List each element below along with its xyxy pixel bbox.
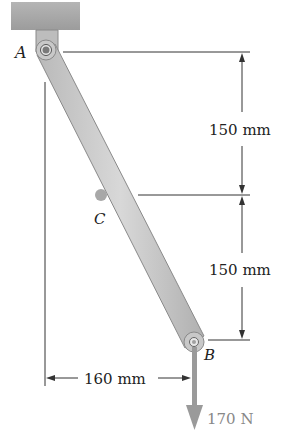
dim-label-lower: 150 mm: [209, 261, 271, 279]
pin-b: [190, 338, 199, 347]
pin-a: [41, 45, 52, 56]
diagram-canvas: A C B 150 mm 150 mm 160 mm 170 N: [0, 0, 288, 442]
label-c: C: [94, 210, 106, 228]
bar-ab: [36, 40, 204, 352]
point-c-marker: [95, 189, 107, 201]
label-b: B: [203, 346, 215, 364]
force-label: 170 N: [207, 410, 254, 428]
dim-label-upper: 150 mm: [209, 121, 271, 139]
ceiling-support: [11, 2, 80, 30]
label-a: A: [13, 43, 27, 62]
force-arrow: [186, 347, 203, 430]
dim-label-horizontal: 160 mm: [84, 370, 146, 388]
